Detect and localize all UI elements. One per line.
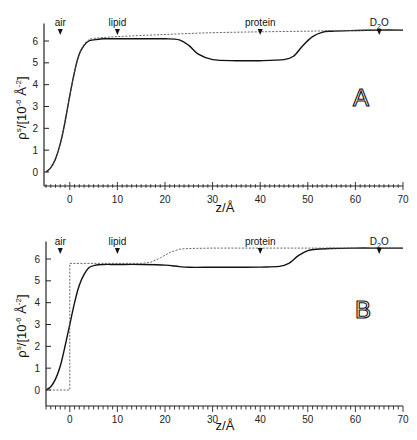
y-axis: 0123456 bbox=[32, 24, 49, 186]
marker-label: air bbox=[55, 17, 67, 28]
x-tick-label: 70 bbox=[397, 194, 409, 205]
marker-arrow-icon bbox=[58, 248, 63, 254]
x-tick-label: 50 bbox=[302, 414, 314, 425]
solid-profile-line bbox=[46, 248, 403, 390]
y-tick-label: 1 bbox=[34, 363, 40, 374]
solid-profile-line bbox=[46, 30, 403, 172]
y-tick-label: 3 bbox=[34, 319, 40, 330]
marker-label: protein bbox=[245, 17, 276, 28]
y-tick-label: 2 bbox=[34, 341, 40, 352]
y-tick-label: 5 bbox=[32, 57, 38, 68]
y-tick-label: 6 bbox=[32, 36, 38, 47]
x-tick-label: 50 bbox=[302, 194, 314, 205]
svg-text:ρs/[10-6 Å-2]: ρs/[10-6 Å-2] bbox=[14, 294, 29, 357]
marker-label: air bbox=[55, 236, 67, 247]
marker-arrow-icon bbox=[115, 29, 120, 35]
x-axis-title: z/Å bbox=[216, 200, 235, 215]
y-axis: 0123456 bbox=[34, 242, 51, 406]
region-markers: airlipidproteinD2O bbox=[55, 236, 389, 254]
x-tick-label: 20 bbox=[159, 194, 171, 205]
x-tick-label: 40 bbox=[255, 194, 267, 205]
dashed-profile-line bbox=[46, 30, 403, 172]
x-tick-label: 0 bbox=[67, 194, 73, 205]
y-tick-label: 2 bbox=[32, 123, 38, 134]
y-tick-label: 1 bbox=[32, 145, 38, 156]
marker-arrow-icon bbox=[58, 29, 63, 35]
y-tick-label: 4 bbox=[32, 79, 38, 90]
x-tick-label: 40 bbox=[255, 414, 267, 425]
marker-arrow-icon bbox=[115, 248, 120, 254]
series-group bbox=[46, 30, 403, 172]
figure: 0123456 010203040506070 airlipidproteinD… bbox=[0, 0, 417, 440]
x-tick-label: 60 bbox=[350, 194, 362, 205]
x-tick-label: 60 bbox=[350, 414, 362, 425]
dashed-profile-line bbox=[46, 248, 403, 390]
marker-label: protein bbox=[245, 236, 276, 247]
panel-letter: B bbox=[355, 296, 371, 323]
marker-label: D2O bbox=[370, 17, 389, 30]
y-tick-label: 0 bbox=[34, 385, 40, 396]
y-tick-label: 0 bbox=[32, 167, 38, 178]
y-tick-label: 5 bbox=[34, 275, 40, 286]
panel-a: 0123456 010203040506070 airlipidproteinD… bbox=[14, 17, 409, 215]
x-axis-title: z/Å bbox=[216, 418, 235, 433]
panel-letter: A bbox=[353, 84, 369, 111]
y-tick-label: 3 bbox=[32, 101, 38, 112]
x-tick-label: 10 bbox=[112, 194, 124, 205]
y-tick-label: 6 bbox=[34, 254, 40, 265]
y-axis-title: ρs/[10-6 Å-2] bbox=[14, 294, 29, 357]
x-tick-label: 10 bbox=[112, 414, 124, 425]
y-tick-label: 4 bbox=[34, 297, 40, 308]
x-tick-label: 70 bbox=[397, 414, 409, 425]
marker-label: lipid bbox=[109, 236, 127, 247]
x-tick-label: 0 bbox=[67, 414, 73, 425]
y-axis-title: ρs/[10-6 Å-2] bbox=[14, 76, 29, 139]
marker-arrow-icon bbox=[258, 248, 263, 254]
marker-label: lipid bbox=[109, 17, 127, 28]
svg-text:ρs/[10-6 Å-2]: ρs/[10-6 Å-2] bbox=[14, 76, 29, 139]
x-tick-label: 20 bbox=[159, 414, 171, 425]
marker-label: D2O bbox=[370, 236, 389, 249]
series-group bbox=[46, 248, 403, 390]
panel-b: 0123456 010203040506070 airlipidproteinD… bbox=[14, 236, 409, 433]
